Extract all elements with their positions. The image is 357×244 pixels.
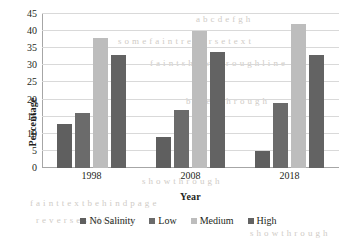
x-axis-ticks: 199820082018	[42, 170, 339, 181]
y-axis-tick-label: 30	[27, 60, 37, 70]
bar-medium-2018	[291, 24, 306, 168]
y-axis-tick-label: 40	[27, 26, 37, 36]
y-axis-tick-label: 20	[27, 95, 37, 105]
x-axis-tick-2008: 2008	[141, 170, 240, 181]
legend-label: No Salinity	[89, 215, 135, 226]
legend-label: Medium	[200, 215, 234, 226]
bar-low-2008	[174, 110, 189, 168]
bar-medium-1998	[93, 38, 108, 168]
y-axis-tick-label: 15	[27, 112, 37, 122]
bar-group-1998	[42, 14, 141, 168]
bar-no-salinity-2018	[255, 151, 270, 168]
chart-legend: No SalinityLowMediumHigh	[0, 215, 357, 226]
legend-label: High	[257, 215, 277, 226]
y-axis-tick-label: 10	[27, 129, 37, 139]
legend-item-high: High	[248, 215, 277, 226]
legend-swatch-icon	[80, 218, 86, 224]
y-axis-tick-label: 5	[32, 146, 37, 156]
bar-no-salinity-2008	[156, 137, 171, 168]
bar-groups	[42, 14, 339, 168]
y-axis-tick-label: 45	[27, 9, 37, 19]
legend-item-no-salinity: No Salinity	[80, 215, 135, 226]
legend-item-low: Low	[149, 215, 176, 226]
bar-high-2008	[210, 52, 225, 168]
bar-no-salinity-1998	[57, 124, 72, 168]
legend-swatch-icon	[191, 218, 197, 224]
bar-group-2018	[240, 14, 339, 168]
bar-group-2008	[141, 14, 240, 168]
y-axis-tick-label: 35	[27, 43, 37, 53]
x-axis-title: Year	[42, 191, 339, 202]
bar-high-2018	[309, 55, 324, 168]
bar-low-2018	[273, 103, 288, 168]
legend-swatch-icon	[248, 218, 254, 224]
x-axis-tick-2018: 2018	[240, 170, 339, 181]
legend-swatch-icon	[149, 218, 155, 224]
bar-low-1998	[75, 113, 90, 168]
legend-label: Low	[158, 215, 176, 226]
y-axis-tick-label: 25	[27, 77, 37, 87]
bar-chart: Percentage 051015202530354045 1998200820…	[0, 0, 357, 244]
x-axis-tick-1998: 1998	[42, 170, 141, 181]
legend-item-medium: Medium	[191, 215, 234, 226]
plot-area: 051015202530354045	[42, 14, 339, 168]
y-axis-title: Percentage	[27, 97, 38, 146]
bar-medium-2008	[192, 31, 207, 168]
bar-high-1998	[111, 55, 126, 168]
y-axis-tick-label: 0	[32, 163, 37, 173]
